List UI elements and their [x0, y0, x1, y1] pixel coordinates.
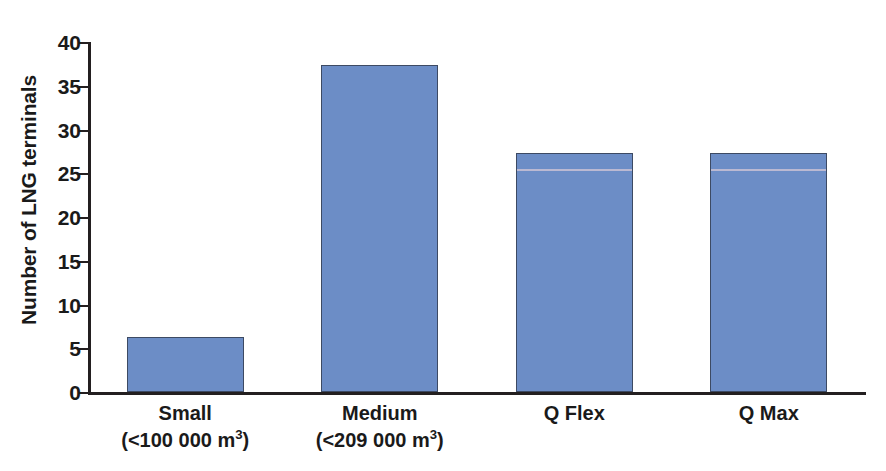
x-axis-category-labels: Small(<100 000 m3)Medium(<209 000 m3)Q F… [88, 400, 866, 466]
x-label-small: Small(<100 000 m3) [88, 400, 283, 454]
x-label-volume-exponent: 3 [430, 427, 437, 442]
y-tick-label: 0 [69, 382, 81, 403]
y-tick-label: 30 [58, 119, 81, 140]
y-axis-title: Number of LNG terminals [12, 0, 46, 400]
scan-artifact-line [517, 169, 632, 171]
y-tick-label: 40 [58, 32, 81, 53]
x-label-q-max: Q Max [672, 400, 867, 427]
y-tick-label: 35 [58, 75, 81, 96]
x-label-name: Q Max [739, 402, 799, 424]
bar-small[interactable] [127, 337, 244, 393]
x-label-name: Q Flex [544, 402, 605, 424]
bar-q-flex[interactable] [516, 153, 633, 392]
y-tick-label: 10 [58, 294, 81, 315]
x-label-name: Medium [342, 402, 418, 424]
y-tick-label: 20 [58, 207, 81, 228]
x-label-q-flex: Q Flex [477, 400, 672, 427]
x-label-volume-suffix: ) [437, 429, 444, 451]
x-label-volume-prefix: (<100 000 m [121, 429, 235, 451]
y-tick-label: 15 [58, 250, 81, 271]
bar-series [88, 36, 866, 395]
x-label-volume-exponent: 3 [235, 427, 242, 442]
bar-q-max[interactable] [710, 153, 827, 392]
y-tick-label: 25 [58, 163, 81, 184]
x-label-volume: (<209 000 m3) [283, 427, 478, 454]
bar-medium[interactable] [321, 65, 438, 392]
x-label-name: Small [159, 402, 212, 424]
x-label-volume-suffix: ) [243, 429, 250, 451]
x-label-volume-prefix: (<209 000 m [316, 429, 430, 451]
plot-area: 0510152025303540 [88, 36, 866, 398]
x-label-medium: Medium(<209 000 m3) [283, 400, 478, 454]
scan-artifact-line [711, 169, 826, 171]
x-label-volume: (<100 000 m3) [88, 427, 283, 454]
y-tick-label: 5 [69, 338, 81, 359]
bar-chart-figure: Number of LNG terminals 0510152025303540… [0, 0, 886, 471]
